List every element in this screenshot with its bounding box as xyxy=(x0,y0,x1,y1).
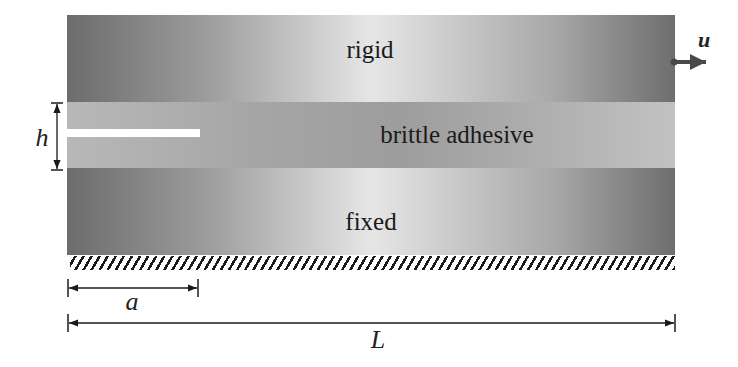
h-label: h xyxy=(36,123,49,153)
a-label: a xyxy=(126,287,139,317)
u-label: u xyxy=(698,27,710,53)
displacement-arrow xyxy=(671,59,707,66)
dimension-lines xyxy=(0,0,738,367)
h-dimension xyxy=(51,103,63,170)
L-label: L xyxy=(371,325,385,355)
